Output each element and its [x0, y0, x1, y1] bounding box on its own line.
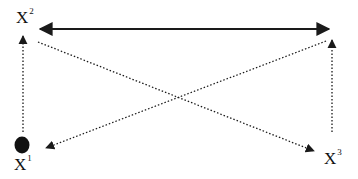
- x1-node-marker: [15, 137, 30, 154]
- x2-superscript: 2: [29, 6, 34, 16]
- diagram-canvas: [0, 0, 358, 179]
- node-label-x1: X1: [14, 156, 32, 173]
- node-label-x3: X3: [324, 150, 342, 167]
- x1-superscript: 1: [27, 153, 32, 163]
- x3-superscript: 3: [337, 147, 342, 157]
- node-label-x2: X2: [16, 9, 34, 26]
- x1-label-text: X: [14, 155, 26, 174]
- dotted-arrow-to-x1: [46, 41, 326, 148]
- x2-label-text: X: [16, 8, 28, 27]
- x3-label-text: X: [324, 149, 336, 168]
